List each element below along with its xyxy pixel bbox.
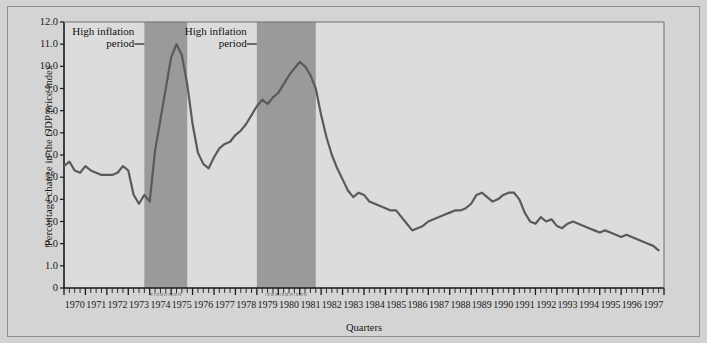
x-tick-label-1997: 1997 <box>638 300 668 310</box>
y-axis-title: Percentage change in the GDP price index <box>43 16 54 296</box>
annotation-high-inflation-period-2: High inflation period <box>107 26 247 49</box>
shaded-band-1 <box>144 22 187 288</box>
figure-frame: 01.02.03.04.05.06.07.08.09.010.011.012.0… <box>0 0 707 343</box>
annotation-2-line-2: period <box>107 38 247 50</box>
shaded-band-2 <box>257 22 316 288</box>
x-axis-title: Quarters <box>304 322 424 333</box>
quarter-roman-labels-band1: IV I II III IV I II III IV <box>144 294 187 297</box>
quarter-roman-labels-band2: I II III IV I II III IV I II III IV <box>257 294 316 297</box>
line-chart <box>0 0 707 343</box>
annotation-2-line-1: High inflation <box>107 26 247 38</box>
